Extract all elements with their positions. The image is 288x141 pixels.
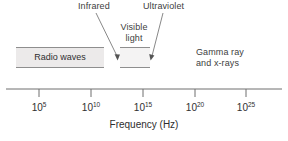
tick-label: 1015: [134, 102, 152, 113]
electromagnetic-spectrum-figure: Infrared Ultraviolet Visible light Gamma…: [0, 0, 288, 141]
tick-label: 105: [32, 102, 47, 113]
frequency-axis-line: [6, 89, 282, 97]
tick-exponent: 15: [145, 101, 152, 108]
tick-exponent: 25: [248, 101, 255, 108]
tick-mantissa: 10: [186, 102, 197, 113]
axis-title: Frequency (Hz): [0, 119, 288, 130]
tick-exponent: 10: [93, 101, 100, 108]
ultraviolet-arrow-icon: [149, 13, 163, 61]
tick-label: 1020: [186, 102, 204, 113]
tick-mantissa: 10: [134, 102, 145, 113]
tick-mantissa: 10: [237, 102, 248, 113]
tick-label: 1025: [237, 102, 255, 113]
tick-mantissa: 10: [32, 102, 43, 113]
tick-exponent: 5: [43, 101, 47, 108]
tick-mantissa: 10: [82, 102, 93, 113]
tick-label: 1010: [82, 102, 100, 113]
tick-exponent: 20: [197, 101, 204, 108]
infrared-arrow-icon: [96, 13, 120, 61]
